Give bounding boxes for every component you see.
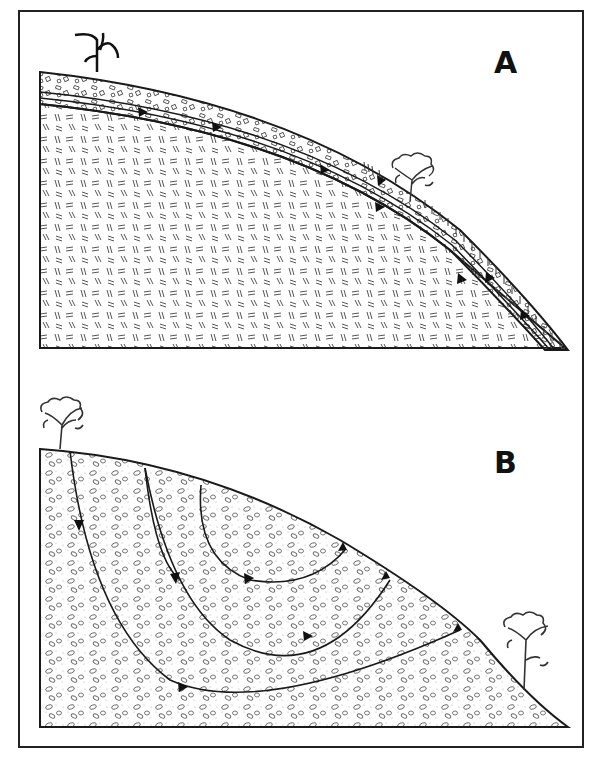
panel-b-diagram: [0, 0, 603, 764]
shrub-crest-icon: [41, 397, 83, 449]
panel-b-label: B: [494, 445, 517, 480]
panel-b: B: [0, 0, 603, 764]
permeable-deposit: [40, 449, 568, 727]
